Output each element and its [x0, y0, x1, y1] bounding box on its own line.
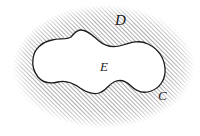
- label-region-e: E: [100, 60, 108, 73]
- label-region-d: D: [115, 13, 126, 28]
- label-curve-c: C: [158, 89, 167, 102]
- math-figure: D E C: [0, 0, 200, 136]
